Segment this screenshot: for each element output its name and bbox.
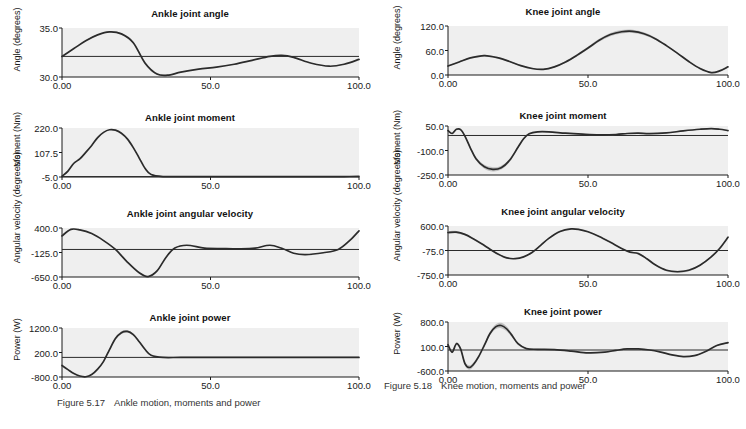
- y-axis-tick-label: 107.5: [0, 147, 58, 158]
- y-axis-label: Angle (degrees): [12, 2, 22, 77]
- x-axis-tick-label: 0.00: [439, 278, 458, 289]
- x-axis-tick-label: 0.00: [53, 280, 72, 291]
- figure-caption-knee: Figure 5.18Knee motion, moments and powe…: [384, 380, 586, 391]
- panel-knee-joint-angular-velocity: Knee joint angular velocity Angular velo…: [380, 206, 746, 298]
- caption-number: Figure 5.17: [57, 397, 105, 408]
- figure-caption-ankle: Figure 5.17Ankle motion, moments and pow…: [57, 397, 260, 408]
- y-axis-label: Power (W): [12, 302, 22, 377]
- caption-text: Ankle motion, moments and power: [114, 397, 260, 408]
- panel-ankle-joint-moment: Ankle joint moment Moment (Nm)220.0107.5…: [0, 112, 380, 202]
- y-axis-tick-label: -600.0: [380, 366, 444, 377]
- y-axis-tick-label: -650.0: [0, 272, 58, 283]
- chart-title: Knee joint angle: [380, 6, 746, 17]
- x-axis-tick-label: 50.0: [201, 280, 220, 291]
- y-axis-tick-label: 0.0: [380, 70, 444, 81]
- x-axis-tick-label: 100.0: [716, 374, 740, 385]
- y-axis-label: Angle (degrees): [392, 0, 402, 75]
- y-axis-tick-label: -75.0: [380, 245, 444, 256]
- y-axis-tick-label: 50.0: [380, 121, 444, 132]
- chart-title: Knee joint moment: [380, 110, 746, 121]
- x-axis-tick-label: 0.00: [53, 180, 72, 191]
- caption-text: Knee motion, moments and power: [441, 380, 586, 391]
- chart-title: Knee joint power: [380, 306, 746, 317]
- x-axis-tick-label: 50.0: [579, 78, 598, 89]
- y-axis-tick-label: -5.0: [0, 172, 58, 183]
- y-axis-label: Power (W): [392, 296, 402, 371]
- y-axis-tick-label: -250.0: [380, 170, 444, 181]
- x-axis-tick-label: 50.0: [201, 80, 220, 91]
- chart-title: Ankle joint power: [0, 312, 380, 323]
- y-axis-tick-label: 120.0: [380, 21, 444, 32]
- y-axis-tick-label: 60.0: [380, 45, 444, 56]
- panel-knee-joint-moment: Knee joint moment Moment (Nm)50.0-100.0-…: [380, 110, 746, 200]
- y-axis-tick-label: -800.0: [0, 372, 58, 383]
- x-axis-tick-label: 0.00: [53, 80, 72, 91]
- x-axis-tick-label: 0.00: [439, 78, 458, 89]
- panel-knee-joint-angle: Knee joint angle Angle (degrees)120.060.…: [380, 6, 746, 98]
- y-axis-tick-label: -125.0: [0, 247, 58, 258]
- y-axis-tick-label: 30.0: [0, 72, 58, 83]
- panel-ankle-joint-angular-velocity: Ankle joint angular velocity Angular vel…: [0, 208, 380, 300]
- x-axis-tick-label: 100.0: [716, 278, 740, 289]
- chart-title: Ankle joint angle: [0, 8, 380, 19]
- chart-title: Ankle joint moment: [0, 112, 380, 123]
- x-axis-tick-label: 0.00: [439, 178, 458, 189]
- chart-title: Ankle joint angular velocity: [0, 208, 380, 219]
- x-axis-tick-label: 0.00: [53, 380, 72, 391]
- chart-title: Knee joint angular velocity: [380, 206, 746, 217]
- x-axis-tick-label: 50.0: [579, 178, 598, 189]
- y-axis-tick-label: 800.0: [380, 317, 444, 328]
- y-axis-tick-label: 200.0: [0, 347, 58, 358]
- caption-number: Figure 5.18: [384, 380, 432, 391]
- y-axis-tick-label: 35.0: [0, 23, 58, 34]
- y-axis-tick-label: 100.0: [380, 341, 444, 352]
- x-axis-tick-label: 100.0: [347, 280, 371, 291]
- x-axis-tick-label: 100.0: [716, 178, 740, 189]
- y-axis-tick-label: 400.0: [0, 223, 58, 234]
- x-axis-tick-label: 50.0: [201, 380, 220, 391]
- panel-ankle-joint-angle: Ankle joint angle Angle (degrees)35.030.…: [0, 8, 380, 100]
- y-axis-tick-label: -100.0: [380, 145, 444, 156]
- y-axis-tick-label: 600.0: [380, 221, 444, 232]
- panel-ankle-joint-power: Ankle joint power Power (W)1200.0200.0-8…: [0, 312, 380, 400]
- y-axis-tick-label: 220.0: [0, 123, 58, 134]
- x-axis-tick-label: 100.0: [347, 380, 371, 391]
- x-axis-tick-label: 50.0: [201, 180, 220, 191]
- x-axis-tick-label: 100.0: [716, 78, 740, 89]
- y-axis-tick-label: -750.0: [380, 270, 444, 281]
- x-axis-tick-label: 100.0: [347, 180, 371, 191]
- x-axis-tick-label: 50.0: [579, 278, 598, 289]
- x-axis-tick-label: 100.0: [347, 80, 371, 91]
- y-axis-tick-label: 1200.0: [0, 323, 58, 334]
